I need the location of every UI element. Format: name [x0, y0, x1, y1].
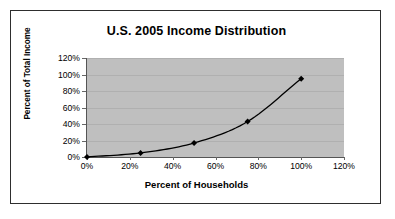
- y-axis-tick-label: 80%: [36, 86, 80, 96]
- gridline-horizontal: [87, 141, 344, 142]
- x-axis-tick-label: 120%: [324, 161, 364, 171]
- x-axis-tick-label: 100%: [281, 161, 321, 171]
- y-axis-tick-mark: [82, 91, 86, 92]
- y-axis-line: [86, 58, 87, 158]
- gridline-horizontal: [87, 91, 344, 92]
- x-axis-tick-mark: [216, 157, 217, 160]
- y-axis-tick-mark: [82, 75, 86, 76]
- y-axis-tick-label: 60%: [36, 103, 80, 113]
- x-axis-tick-mark: [344, 157, 345, 160]
- x-axis-tick-mark: [258, 157, 259, 160]
- y-axis-title: Percent of Total Income: [23, 14, 32, 134]
- gridline-horizontal: [87, 108, 344, 109]
- gridline-horizontal: [87, 58, 344, 59]
- y-axis-tick-label: 20%: [36, 136, 80, 146]
- gridline-horizontal: [87, 75, 344, 76]
- x-axis-title: Percent of Households: [11, 179, 382, 190]
- y-axis-tick-mark: [82, 58, 86, 59]
- y-axis-tick-mark: [82, 157, 86, 158]
- x-axis-tick-label: 20%: [110, 161, 150, 171]
- x-axis-tick-label: 0%: [67, 161, 107, 171]
- x-axis-tick-mark: [87, 157, 88, 160]
- y-axis-tick-label: 120%: [36, 53, 80, 63]
- plot-area: [87, 58, 344, 157]
- x-axis-tick-label: 60%: [196, 161, 236, 171]
- y-axis-tick-label: 100%: [36, 70, 80, 80]
- x-axis-tick-label: 40%: [153, 161, 193, 171]
- x-axis-tick-mark: [173, 157, 174, 160]
- chart-frame: U.S. 2005 Income Distribution Percent of…: [10, 10, 381, 204]
- x-axis-tick-label: 80%: [238, 161, 278, 171]
- y-axis-tick-mark: [82, 108, 86, 109]
- y-axis-tick-mark: [82, 141, 86, 142]
- y-axis-tick-mark: [82, 124, 86, 125]
- chart-title: U.S. 2005 Income Distribution: [11, 24, 382, 38]
- x-axis-tick-mark: [301, 157, 302, 160]
- x-axis-tick-mark: [130, 157, 131, 160]
- y-axis-tick-label: 40%: [36, 119, 80, 129]
- gridline-horizontal: [87, 124, 344, 125]
